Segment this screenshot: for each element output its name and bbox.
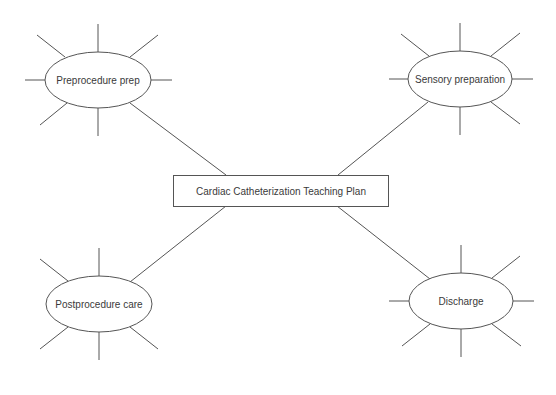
node-preprocedure-label: Preprocedure prep (56, 75, 139, 86)
center-label: Cardiac Catheterization Teaching Plan (196, 186, 366, 197)
connector-preprocedure (130, 103, 226, 175)
node-postprocedure-label: Postprocedure care (55, 299, 142, 310)
concept-map (0, 0, 556, 395)
connector-discharge (337, 206, 430, 279)
connector-postprocedure (130, 206, 226, 282)
node-discharge-label: Discharge (438, 296, 483, 307)
connector-sensory (338, 102, 428, 175)
node-sensory-label: Sensory preparation (415, 74, 505, 85)
